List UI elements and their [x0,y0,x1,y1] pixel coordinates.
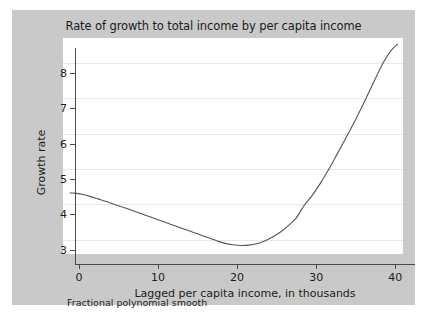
y-tick-mark [70,73,75,74]
x-tick-mark [158,264,159,269]
chart-title: Rate of growth to total income by per ca… [12,19,415,33]
y-tick-mark [70,214,75,215]
x-tick-label: 20 [217,271,257,284]
x-tick-label: 0 [59,271,99,284]
x-tick-label: 40 [375,271,415,284]
x-tick-mark [395,264,396,269]
chart-figure: Rate of growth to total income by per ca… [0,0,427,319]
chart-footnote: Fractional polynomial smooth [67,297,207,308]
y-tick-mark [70,250,75,251]
x-tick-label: 30 [296,271,336,284]
x-axis-line [75,264,415,265]
y-tick-label: 3 [27,243,67,256]
y-axis-line [75,48,76,264]
x-tick-mark [79,264,80,269]
x-tick-mark [237,264,238,269]
y-axis-title: Growth rate [35,108,48,218]
plot-region [63,38,403,254]
y-tick-mark [70,179,75,180]
x-tick-label: 10 [138,271,178,284]
chart-panel: Rate of growth to total income by per ca… [12,10,415,305]
y-tick-label: 8 [27,66,67,79]
line-series-curve [63,38,403,254]
y-tick-mark [70,108,75,109]
y-tick-mark [70,144,75,145]
x-tick-mark [316,264,317,269]
